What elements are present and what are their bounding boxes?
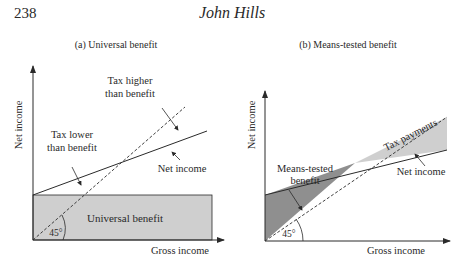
y-axis-label: Net income — [13, 100, 24, 149]
net-income-arrow — [172, 152, 180, 160]
panel-b-title: (b) Means-tested benefit — [299, 39, 397, 51]
net-income-label: Net income — [397, 166, 446, 177]
net-income-label: Net income — [158, 163, 207, 174]
y-axis-label: Net income — [246, 100, 257, 149]
angle-label: 45° — [49, 228, 63, 238]
panel-universal-benefit: (a) Universal benefit Universal benefit … — [13, 39, 224, 256]
x-axis-label: Gross income — [151, 245, 209, 256]
panel-a-title: (a) Universal benefit — [75, 39, 158, 51]
angle-label: 45° — [282, 229, 296, 239]
x-axis-label: Gross income — [367, 245, 425, 256]
means-tested-label-line1: Means-tested — [277, 163, 334, 174]
tax-higher-label-line2: than benefit — [105, 88, 155, 99]
tax-higher-label-line1: Tax higher — [107, 75, 153, 86]
tax-lower-arrow — [72, 167, 81, 185]
tax-lower-label-line2: than benefit — [47, 142, 97, 153]
tax-lower-label-line1: Tax lower — [51, 129, 94, 140]
figure: (a) Universal benefit Universal benefit … — [0, 0, 464, 267]
means-tested-label-line2: benefit — [290, 175, 319, 186]
tax-higher-arrow — [162, 108, 178, 130]
panel-means-tested-benefit: (b) Means-tested benefit Net income Gros… — [246, 39, 450, 256]
angle-arc — [296, 219, 303, 241]
universal-benefit-label: Universal benefit — [87, 212, 163, 224]
